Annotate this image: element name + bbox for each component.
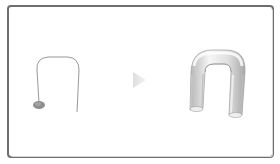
diagram-canvas [0, 0, 280, 164]
extruded-tube [190, 50, 245, 118]
profile-ellipse [33, 101, 45, 109]
arrow-right-icon [133, 72, 146, 88]
